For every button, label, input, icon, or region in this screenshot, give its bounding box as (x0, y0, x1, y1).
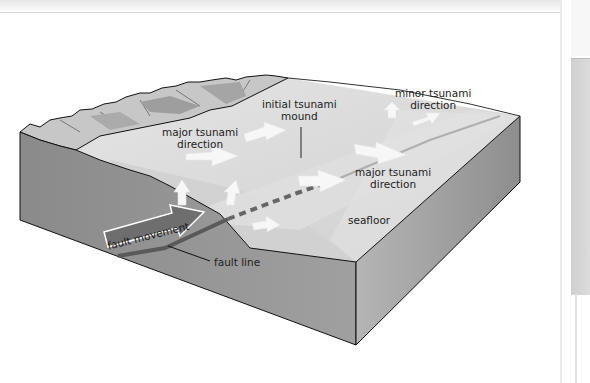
label-major-direction-right: major tsunami direction (355, 166, 431, 190)
label-seafloor: seafloor (348, 214, 390, 226)
label-minor-line1: minor tsunami (395, 87, 471, 99)
label-minor-direction: minor tsunami direction (395, 87, 471, 111)
label-minor-line2: direction (395, 99, 471, 111)
label-initial-mound-line1: initial tsunami (262, 98, 337, 110)
tsunami-block-diagram (0, 0, 590, 383)
label-major-right-line1: major tsunami (355, 166, 431, 178)
label-fault-line: fault line (214, 256, 260, 268)
label-major-direction-left: major tsunami direction (162, 126, 238, 150)
label-initial-mound: initial tsunami mound (262, 98, 337, 122)
label-major-left-line1: major tsunami (162, 126, 238, 138)
label-initial-mound-line2: mound (262, 110, 337, 122)
label-major-left-line2: direction (162, 138, 238, 150)
label-major-right-line2: direction (355, 178, 431, 190)
